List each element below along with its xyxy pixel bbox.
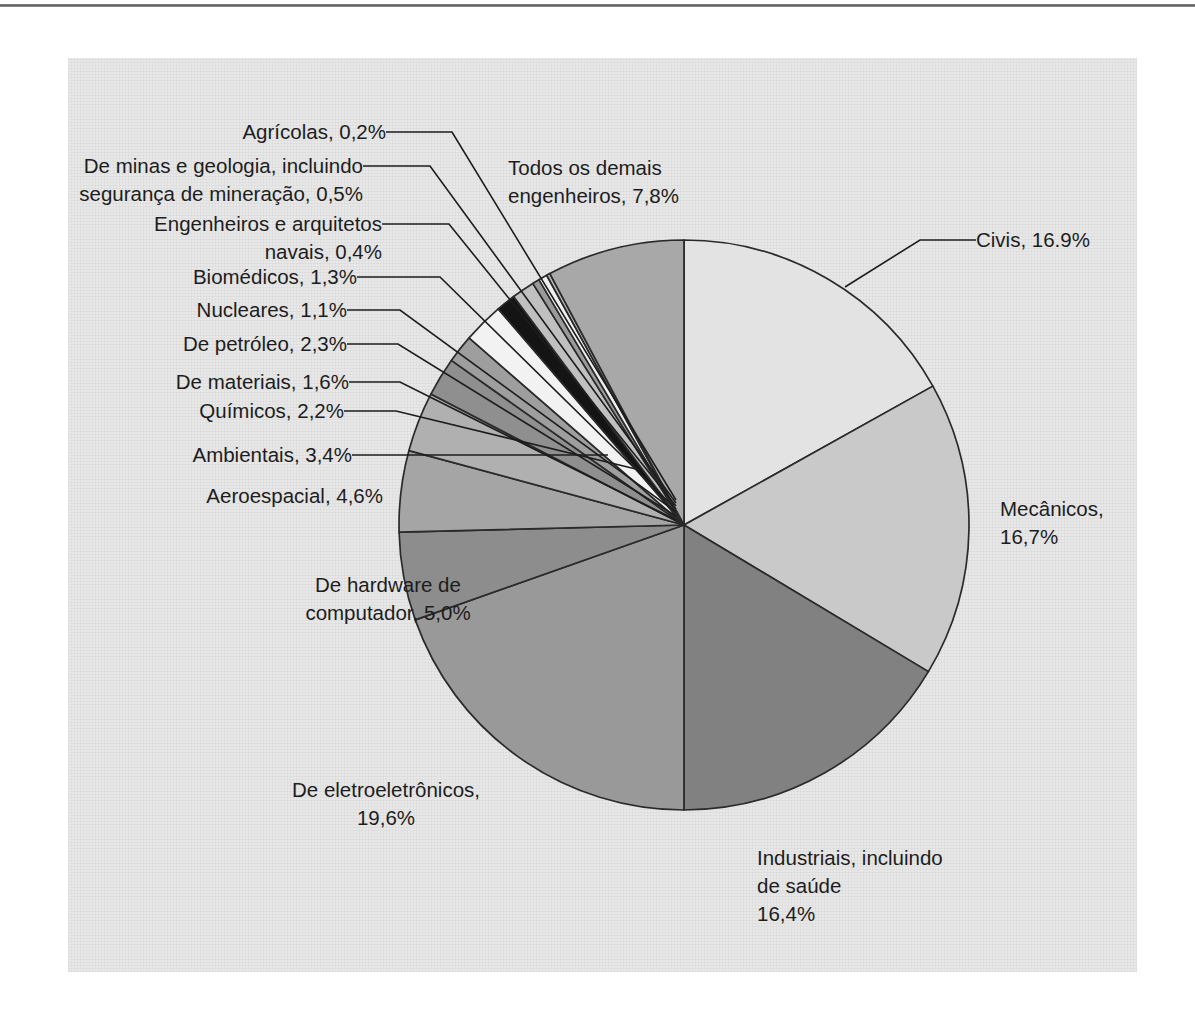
- pie-label-line: Mecânicos,: [1000, 497, 1104, 520]
- pie-chart: Agrícolas, 0,2%De minas e geologia, incl…: [0, 0, 1195, 1025]
- pie-label-demais: Todos os demaisengenheiros, 7,8%: [508, 156, 679, 207]
- pie-label-line: De petróleo, 2,3%: [183, 332, 347, 355]
- pie-label-line: Civis, 16.9%: [976, 228, 1090, 251]
- pie-label-biomedicos: Biomédicos, 1,3%: [193, 265, 357, 288]
- pie-label-mecanicos: Mecânicos,16,7%: [1000, 497, 1104, 548]
- pie-label-line: 16,7%: [1000, 525, 1058, 548]
- pie-label-line: De eletroeletrônicos,: [292, 778, 480, 801]
- pie-label-line: De hardware de: [315, 573, 461, 596]
- pie-label-line: Nucleares, 1,1%: [197, 298, 347, 321]
- pie-label-line: Industriais, incluindo: [757, 846, 943, 869]
- pie-label-line: Biomédicos, 1,3%: [193, 265, 357, 288]
- pie-label-line: De materiais, 1,6%: [176, 370, 349, 393]
- pie-label-line: Ambientais, 3,4%: [192, 443, 352, 466]
- pie-label-minas: De minas e geologia, incluindosegurança …: [79, 154, 363, 205]
- pie-label-line: De minas e geologia, incluindo: [84, 154, 363, 177]
- pie-label-line: Agrícolas, 0,2%: [242, 120, 386, 143]
- pie-slice-group: [399, 240, 969, 810]
- pie-label-line: de saúde: [757, 874, 841, 897]
- pie-label-nucleares: Nucleares, 1,1%: [197, 298, 347, 321]
- pie-label-aeroespacial: Aeroespacial, 4,6%: [206, 484, 383, 507]
- pie-label-eletroeletronicos: De eletroeletrônicos,19,6%: [292, 778, 480, 829]
- pie-label-line: Engenheiros e arquitetos: [154, 212, 382, 235]
- pie-label-line: computador, 5,0%: [305, 601, 470, 624]
- pie-label-civis: Civis, 16.9%: [976, 228, 1090, 251]
- pie-label-navais: Engenheiros e arquitetosnavais, 0,4%: [154, 212, 382, 263]
- pie-label-materiais: De materiais, 1,6%: [176, 370, 349, 393]
- pie-label-line: segurança de mineração, 0,5%: [79, 182, 363, 205]
- leader-line-civis: [845, 240, 976, 287]
- page-root: Agrícolas, 0,2%De minas e geologia, incl…: [0, 0, 1195, 1025]
- pie-label-petroleo: De petróleo, 2,3%: [183, 332, 347, 355]
- pie-label-quimicos: Químicos, 2,2%: [199, 399, 344, 422]
- pie-label-line: 19,6%: [357, 806, 415, 829]
- pie-label-line: engenheiros, 7,8%: [508, 184, 679, 207]
- pie-label-line: 16,4%: [757, 902, 815, 925]
- pie-label-line: Químicos, 2,2%: [199, 399, 344, 422]
- pie-label-line: navais, 0,4%: [265, 240, 382, 263]
- pie-label-industriais: Industriais, incluindode saúde16,4%: [757, 846, 943, 925]
- pie-label-line: Aeroespacial, 4,6%: [206, 484, 383, 507]
- pie-label-line: Todos os demais: [508, 156, 662, 179]
- pie-label-ambientais: Ambientais, 3,4%: [192, 443, 352, 466]
- pie-label-agricolas: Agrícolas, 0,2%: [242, 120, 386, 143]
